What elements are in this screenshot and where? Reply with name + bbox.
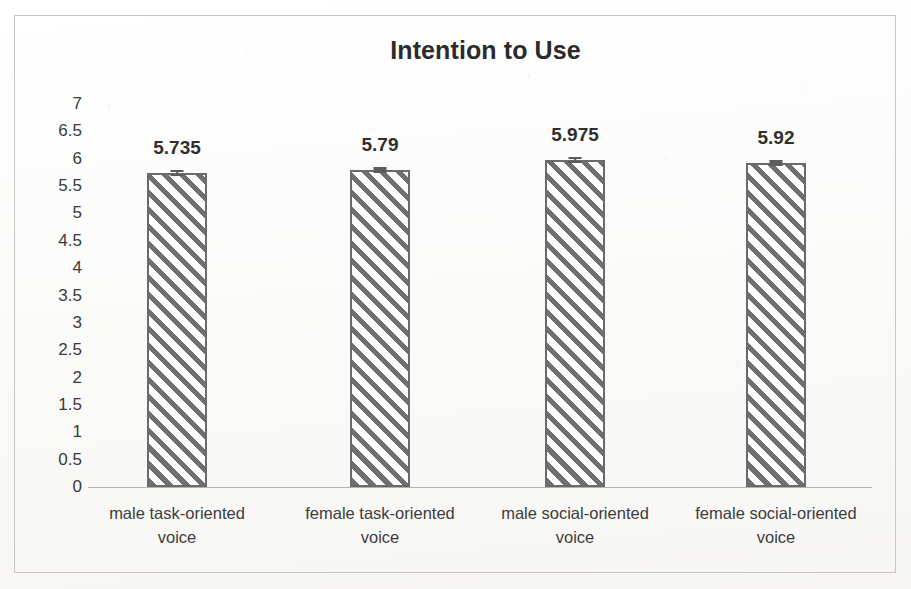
- error-bar-cap-bottom: [374, 170, 387, 173]
- bar-value-label: 5.735: [153, 137, 201, 159]
- y-axis-tick-label: 3.5: [36, 286, 82, 306]
- y-axis-tick-label: 1.5: [36, 395, 82, 415]
- error-bar-cap-bottom: [770, 163, 783, 166]
- error-bar: [569, 157, 582, 164]
- y-axis-tick-label: 4.5: [36, 231, 82, 251]
- bar: [147, 173, 207, 487]
- chart-page: Intention to Use 76.565.554.543.532.521.…: [0, 0, 911, 589]
- category-label-line: voice: [270, 526, 490, 550]
- bar-group: 5.975: [545, 0, 605, 487]
- error-bar-cap-top: [569, 157, 582, 160]
- category-label-line: voice: [67, 526, 287, 550]
- y-axis-tick-label: 6.5: [36, 121, 82, 141]
- y-axis-tick-label: 5.5: [36, 176, 82, 196]
- error-bar: [171, 170, 184, 177]
- x-axis-line: [88, 487, 872, 488]
- bar-group: 5.92: [746, 0, 806, 487]
- x-axis-category-label: female task-orientedvoice: [270, 502, 490, 550]
- bar-group: 5.735: [147, 0, 207, 487]
- y-axis-tick-label: 7: [36, 94, 82, 114]
- y-axis: 76.565.554.543.532.521.510.50: [32, 0, 82, 589]
- x-axis-category-label: male social-orientedvoice: [465, 502, 685, 550]
- bar: [746, 163, 806, 487]
- bar: [545, 160, 605, 487]
- error-bar-cap-bottom: [569, 161, 582, 164]
- y-axis-tick-label: 1: [36, 422, 82, 442]
- y-axis-tick-label: 2.5: [36, 340, 82, 360]
- category-label-line: voice: [465, 526, 685, 550]
- error-bar-cap-top: [171, 170, 184, 173]
- y-axis-tick-label: 0: [36, 477, 82, 497]
- x-axis-category-label: female social-orientedvoice: [666, 502, 886, 550]
- y-axis-tick-label: 5: [36, 203, 82, 223]
- x-axis-category-label: male task-orientedvoice: [67, 502, 287, 550]
- category-label-line: female social-oriented: [666, 502, 886, 526]
- category-label-line: voice: [666, 526, 886, 550]
- error-bar-cap-bottom: [171, 174, 184, 177]
- bar-value-label: 5.92: [758, 127, 795, 149]
- bar: [350, 170, 410, 487]
- category-label-line: female task-oriented: [270, 502, 490, 526]
- error-bar: [770, 160, 783, 165]
- category-label-line: male task-oriented: [67, 502, 287, 526]
- y-axis-tick-label: 0.5: [36, 450, 82, 470]
- y-axis-tick-label: 6: [36, 149, 82, 169]
- bar-group: 5.79: [350, 0, 410, 487]
- category-label-line: male social-oriented: [465, 502, 685, 526]
- y-axis-tick-label: 2: [36, 368, 82, 388]
- y-axis-tick-label: 3: [36, 313, 82, 333]
- error-bar: [374, 167, 387, 172]
- bar-value-label: 5.975: [551, 124, 599, 146]
- y-axis-tick-label: 4: [36, 258, 82, 278]
- bar-value-label: 5.79: [362, 134, 399, 156]
